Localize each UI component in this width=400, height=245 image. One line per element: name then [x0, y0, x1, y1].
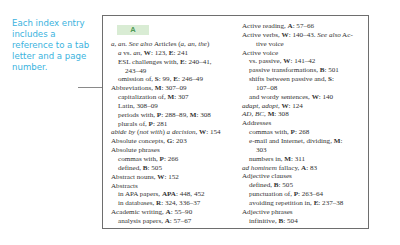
index-entry: commas with, P: 266 — [111, 155, 239, 164]
index-entry: punctuation of, P: 263–64 — [242, 190, 366, 199]
index-entry: plurals of, P: 281 — [111, 120, 239, 129]
index-entry: and wordy sentences, W: 140 — [242, 93, 366, 102]
tab-letter-header: A — [117, 25, 149, 35]
tab-letter-ref: APA — [162, 190, 176, 198]
index-entry: Active reading, A: 57–66 — [242, 22, 366, 31]
index-entry: analysis papers, A: 57–67 — [111, 217, 239, 226]
index-entry: AD, BC, M: 308 — [242, 110, 366, 119]
index-entry: tive voice — [242, 40, 366, 49]
index-entry: omission of, S: 99, E: 246–49 — [111, 75, 239, 84]
index-entry: avoiding repetition in, E: 237–38 — [242, 199, 366, 208]
index-column-right: Active reading, A: 57–66Active verbs, W:… — [242, 22, 366, 225]
index-entry: Adjective clauses — [242, 172, 366, 181]
tab-letter-ref: W — [282, 31, 289, 39]
index-entry: Latin, 308–09 — [111, 102, 239, 111]
index-entry: defined, B: 505 — [111, 164, 239, 173]
index-entry: shifts between passive and, S: — [242, 75, 366, 84]
index-entry: vs. passive, W: 141–42 — [242, 57, 366, 66]
index-page-excerpt: A a, an. See also Articles (a, an, the)a… — [102, 15, 369, 229]
index-entry: ad hominem fallacy, A: 83 — [242, 164, 366, 173]
index-entry: Abstracts — [111, 182, 239, 191]
tab-letter-ref: W — [144, 49, 151, 57]
callout-annotation: Each index entry includes a reference to… — [12, 18, 98, 73]
index-entry: 243–49 — [111, 67, 239, 76]
index-entry: Absolute phrases — [111, 146, 239, 155]
index-entry: defined, B: 505 — [242, 181, 366, 190]
index-entry: Abstract nouns, W: 152 — [111, 173, 239, 182]
index-entry: commas with, P: 268 — [242, 128, 366, 137]
index-entry: passive transformations, B: 501 — [242, 66, 366, 75]
index-entry: 303 — [242, 146, 366, 155]
index-entry: Adjective phrases — [242, 208, 366, 217]
index-entry: a vs. an, W: 123, E: 241 — [111, 49, 239, 58]
index-entry: Addresses — [242, 119, 366, 128]
index-entry: in databases, R: 324, 336–37 — [111, 199, 239, 208]
index-entry: adapt, adopt, W: 124 — [242, 102, 366, 111]
index-entry: Absolute concepts, G: 203 — [111, 137, 239, 146]
index-entry: a, an. See also Articles (a, an, the) — [111, 40, 239, 49]
tab-letter-ref: W — [281, 102, 288, 110]
index-entry: 107–08 — [242, 84, 366, 93]
tab-letter-ref: W — [312, 93, 319, 101]
index-entry: in APA papers, APA: 448, 452 — [111, 190, 239, 199]
callout-connector-line — [78, 87, 104, 88]
index-entry: Academic writing, A: 55–90 — [111, 208, 239, 217]
index-entry: Abbreviations, M: 307–09 — [111, 84, 239, 93]
index-entry: Active voice — [242, 49, 366, 58]
index-entry: infinitive, B: 504 — [242, 217, 366, 226]
index-entry: numbers in, M: 311 — [242, 155, 366, 164]
index-entry: ESL challenges with, E: 240–41, — [111, 58, 239, 67]
index-entry: Active verbs, W: 140–43. See also Ac- — [242, 31, 366, 40]
index-entry: periods with, P: 288–89, M: 308 — [111, 111, 239, 120]
index-entry: e-mail and Internet, dividing, M: — [242, 137, 366, 146]
index-entry: abide by (not with) a decision, W: 154 — [111, 128, 239, 137]
tab-letter-ref: M — [284, 155, 291, 163]
index-entry: capitalization of, M: 307 — [111, 93, 239, 102]
index-column-left: a, an. See also Articles (a, an, the)a v… — [111, 40, 239, 226]
